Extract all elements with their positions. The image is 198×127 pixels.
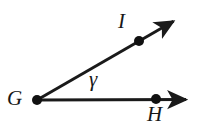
angle-diagram: G I H γ bbox=[0, 0, 198, 127]
point-label-h: H bbox=[147, 104, 162, 125]
point-i bbox=[134, 36, 144, 46]
point-label-i: I bbox=[118, 11, 125, 32]
ray-gi bbox=[37, 21, 174, 100]
angle-label-gamma: γ bbox=[89, 69, 97, 90]
vertex-point-g bbox=[32, 95, 42, 105]
vertex-label-g: G bbox=[7, 88, 22, 109]
angle-diagram-canvas bbox=[0, 0, 198, 127]
